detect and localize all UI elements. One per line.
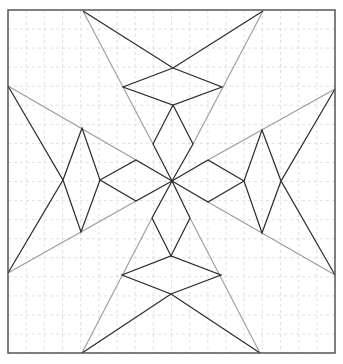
pattern-line [100,180,172,201]
pattern-line [244,89,335,275]
pattern-line [8,86,100,273]
diagram-canvas [0,0,343,364]
gray-guide-line [8,86,136,160]
pattern-line [171,181,190,256]
pattern-line [152,181,172,256]
star-pattern-diagram [0,0,343,364]
pattern-line [82,256,260,353]
pattern-line [100,160,172,181]
black-pattern-lines [8,11,335,353]
gray-guide-line [190,218,260,353]
gray-guide-line [193,11,263,144]
pattern-line [153,105,173,181]
pattern-line [83,11,263,105]
